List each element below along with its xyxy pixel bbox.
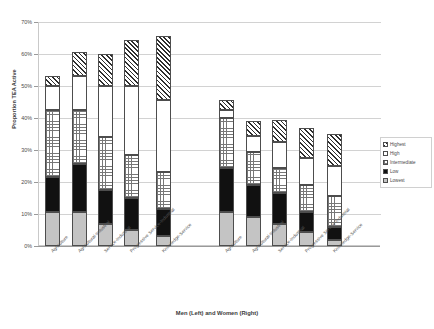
bar-segment [124, 198, 139, 230]
legend-item[interactable]: High [383, 149, 429, 158]
y-tick-label: 50% [2, 83, 32, 89]
y-tick-mark [34, 22, 38, 23]
x-axis-line [38, 246, 380, 247]
legend-label: Lowest [390, 178, 405, 183]
bar-segment [98, 54, 113, 86]
y-tick-label: 30% [2, 147, 32, 153]
y-tick-mark [34, 54, 38, 55]
bar-segment [124, 40, 139, 86]
gridline [39, 54, 381, 55]
y-tick-label: 40% [2, 115, 32, 121]
legend-label: Low [390, 169, 398, 174]
bar-segment [272, 142, 287, 168]
bar-segment [156, 172, 171, 209]
y-tick-label: 0% [2, 243, 32, 249]
legend-item[interactable]: Lowest [383, 176, 429, 185]
bar-segment [45, 177, 60, 212]
bar-segment [45, 110, 60, 177]
bar-segment [124, 155, 139, 198]
legend-swatch-icon [383, 169, 388, 174]
legend-item[interactable]: Highest [383, 140, 429, 149]
bar-segment [72, 76, 87, 110]
y-tick-label: 60% [2, 51, 32, 57]
x-axis-title: Men (Left) and Women (Right) [0, 310, 434, 316]
chart-legend: HighestHighIntermediateLowLowest [380, 137, 432, 188]
bar-segment [272, 120, 287, 142]
y-tick-label: 20% [2, 179, 32, 185]
bar-segment [272, 168, 287, 194]
legend-label: Intermediate [390, 160, 416, 165]
gridline [39, 22, 381, 23]
gridline [39, 118, 381, 119]
legend-swatch-icon [383, 151, 388, 156]
bar-segment [272, 193, 287, 223]
bar-segment [299, 128, 314, 158]
y-tick-mark [34, 182, 38, 183]
legend-label: High [390, 151, 399, 156]
y-tick-label: 10% [2, 211, 32, 217]
bar-segment [72, 110, 87, 164]
bar-segment [98, 190, 113, 224]
legend-swatch-icon [383, 142, 388, 147]
gridline [39, 86, 381, 87]
y-tick-label: 70% [2, 19, 32, 25]
y-axis-title: Proportion TEA Active [11, 39, 17, 159]
bar-segment [327, 134, 342, 166]
legend-swatch-icon [383, 160, 388, 165]
legend-label: Highest [390, 142, 406, 147]
bar-segment [219, 110, 234, 118]
legend-item[interactable]: Low [383, 167, 429, 176]
bar-segment [124, 86, 139, 155]
bar-segment [219, 168, 234, 213]
legend-swatch-icon [383, 178, 388, 183]
y-tick-mark [34, 118, 38, 119]
bar-segment [98, 137, 113, 190]
bar-segment [156, 36, 171, 100]
bar-segment [72, 52, 87, 76]
bar-segment [246, 185, 261, 217]
bar-segment [72, 164, 87, 212]
bar-segment [219, 118, 234, 168]
bar-segment [45, 86, 60, 110]
bar-segment [219, 100, 234, 110]
bar-segment [246, 136, 261, 152]
chart-container: 0%10%20%30%40%50%60%70% Proportion TEA A… [0, 0, 434, 329]
bar-segment [299, 158, 314, 185]
bar-segment [45, 76, 60, 86]
bar-segment [98, 86, 113, 137]
y-tick-mark [34, 214, 38, 215]
legend-item[interactable]: Intermediate [383, 158, 429, 167]
y-tick-mark [34, 150, 38, 151]
y-tick-mark [34, 86, 38, 87]
bar-segment [327, 166, 342, 196]
bar-segment [299, 185, 314, 212]
y-tick-mark [34, 246, 38, 247]
bar-segment [246, 152, 261, 186]
bar-segment [246, 121, 261, 135]
bar-segment [156, 100, 171, 172]
